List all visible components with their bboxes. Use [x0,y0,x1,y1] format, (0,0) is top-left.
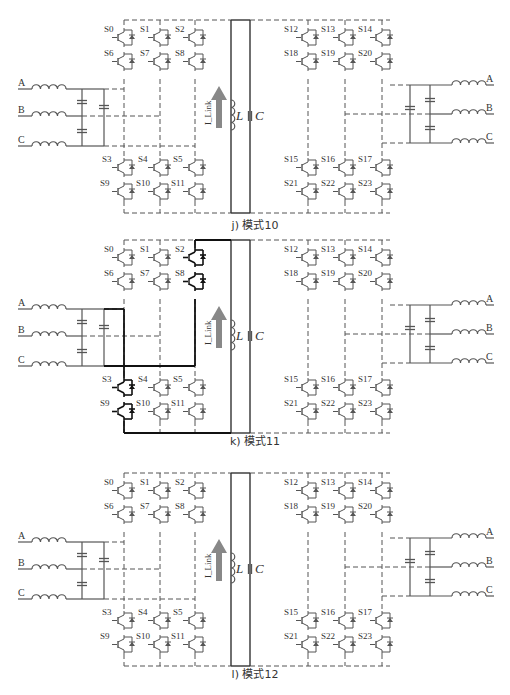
switch-label: S1 [140,244,150,254]
switch-label: S8 [175,501,185,511]
igbt-switch-icon [148,158,171,177]
igbt-switch-icon [296,28,319,47]
switch-label: S0 [104,477,114,487]
igbt-switch-icon [370,272,393,291]
igbt-switch-icon [296,52,319,71]
phase-label: B [18,324,25,335]
switch-label: S11 [171,631,185,641]
switch-label: S17 [358,607,373,617]
panel-k: S0S6S3S9S12S18S15S21S1S7S4S10S13S19S16S2… [18,240,494,433]
switch-label: S21 [284,631,298,641]
igbt-switch-icon [333,158,356,177]
capacitor-label: C [255,108,264,123]
circuit-diagram: S0S6S3S9S12S18S15S21S1S7S4S10S13S19S16S2… [0,0,510,695]
switch-label: S15 [284,374,299,384]
switch-label: S16 [321,374,336,384]
switch-label: S19 [321,501,336,511]
igbt-switch-icon [183,635,206,654]
igbt-switch-icon [370,402,393,421]
igbt-switch-icon [148,248,171,267]
inductor-icon [32,595,66,599]
switch-label: S9 [100,178,110,188]
igbt-switch-icon [112,28,135,47]
switch-label: S10 [136,631,151,641]
inductor-icon [452,301,486,305]
current-label: I_Link [203,320,213,345]
switch-label: S20 [358,268,373,278]
igbt-switch-icon [370,611,393,630]
switch-label: S9 [100,398,110,408]
igbt-switch-icon [183,52,206,71]
phase-label: C [18,587,25,598]
capacitor-label: C [255,561,264,576]
switch-label: S21 [284,178,298,188]
igbt-switch-icon [333,635,356,654]
switch-label: S17 [358,154,373,164]
switch-label: S15 [284,154,299,164]
switch-label: S1 [140,477,150,487]
current-arrow-icon [211,539,227,581]
igbt-switch-icon [148,28,171,47]
switch-label: S3 [102,374,112,384]
switch-label: S19 [321,268,336,278]
igbt-switch-icon [333,378,356,397]
igbt-switch-icon [112,402,135,421]
igbt-switch-icon [112,505,135,524]
igbt-switch-icon [333,272,356,291]
igbt-switch-icon [333,52,356,71]
switch-label: S2 [175,477,185,487]
inductor-icon [452,534,486,538]
caption-panel-j: j) 模式10 [175,216,335,232]
igbt-switch-icon [112,481,135,500]
switch-label: S8 [175,48,185,58]
igbt-switch-icon [296,248,319,267]
phase-label: B [18,104,25,115]
inductor-icon [32,565,66,569]
igbt-switch-icon [183,28,206,47]
switch-label: S22 [321,398,335,408]
igbt-switch-icon [112,272,135,291]
igbt-switch-icon [112,52,135,71]
switch-label: S4 [138,607,148,617]
switch-label: S14 [358,244,373,254]
switch-label: S5 [173,607,183,617]
igbt-switch-icon [333,28,356,47]
switch-label: S13 [321,24,336,34]
switch-label: S7 [140,48,150,58]
igbt-switch-icon [296,635,319,654]
phase-label: A [486,293,494,304]
igbt-switch-icon [370,182,393,201]
igbt-switch-icon [183,248,206,267]
igbt-switch-icon [370,248,393,267]
igbt-switch-icon [112,611,135,630]
igbt-switch-icon [148,52,171,71]
igbt-switch-icon [296,481,319,500]
igbt-switch-icon [370,158,393,177]
igbt-switch-icon [296,272,319,291]
igbt-switch-icon [333,611,356,630]
switch-label: S22 [321,178,335,188]
inductor-icon [32,142,66,146]
caption-panel-k: k) 模式11 [175,432,335,448]
switch-label: S3 [102,154,112,164]
switch-label: S23 [358,178,373,188]
inductor-icon [452,359,486,363]
inductor-icon [32,85,66,89]
switch-label: S20 [358,501,373,511]
switch-label: S6 [104,501,114,511]
igbt-switch-icon [183,272,206,291]
inductor-icon [32,538,66,542]
switch-label: S12 [284,477,298,487]
inductor-icon [452,81,486,85]
igbt-switch-icon [370,378,393,397]
capacitor-label: C [255,328,264,343]
igbt-switch-icon [183,402,206,421]
switch-label: S16 [321,154,336,164]
igbt-switch-icon [112,635,135,654]
switch-label: S22 [321,631,335,641]
switch-label: S21 [284,398,298,408]
phase-label: A [486,73,494,84]
switch-label: S7 [140,501,150,511]
switch-label: S1 [140,24,150,34]
current-arrow-icon [211,86,227,128]
